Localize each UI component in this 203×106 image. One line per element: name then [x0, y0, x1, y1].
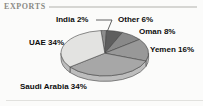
slice-label-oman: Oman 8% — [139, 27, 175, 36]
slice-label-india: India 2% — [56, 15, 88, 24]
slice-label-uae: UAE 34% — [29, 38, 64, 47]
pie-slices-group — [61, 30, 149, 81]
slice-label-other: Other 6% — [118, 15, 153, 24]
bottom-rule — [6, 100, 203, 101]
slice-label-saudi-arabia: Saudi Arabia 34% — [20, 82, 87, 91]
slice-label-yemen: Yemen 16% — [150, 45, 194, 54]
india-callout-line — [96, 20, 112, 32]
exports-pie-figure: EXPORTS India 2% Other 6% Oman 8% Yemen … — [0, 0, 203, 106]
